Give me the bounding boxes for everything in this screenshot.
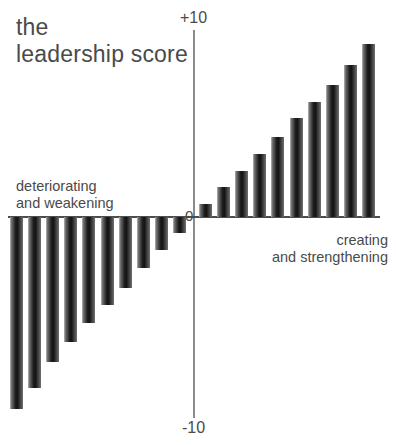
bar: [235, 171, 248, 218]
bar: [64, 217, 77, 342]
bar: [199, 204, 212, 217]
bar: [173, 217, 186, 233]
bar: [271, 137, 284, 217]
bar: [217, 187, 230, 217]
bar: [119, 217, 132, 288]
bar: [137, 217, 150, 268]
bars-layer: [0, 0, 396, 445]
bar: [326, 85, 339, 217]
bar: [344, 65, 357, 218]
chart-page: the leadership score deteriorating and w…: [0, 0, 396, 445]
bar: [155, 217, 168, 250]
bar: [290, 118, 303, 217]
bar: [362, 44, 375, 217]
bar: [101, 217, 114, 305]
bar: [46, 217, 59, 362]
bar: [10, 217, 23, 409]
bar: [308, 102, 321, 217]
bar: [28, 217, 41, 388]
bar: [253, 154, 266, 217]
bar: [82, 217, 95, 323]
